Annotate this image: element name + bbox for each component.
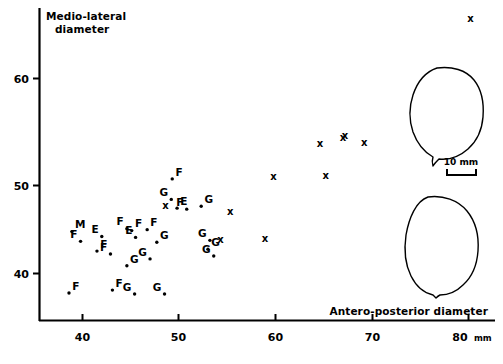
data-point-dot — [95, 249, 98, 252]
figure-scatter-plot: 60 50 40 40 50 60 70 80 mm Medio-lateral… — [0, 0, 503, 364]
data-point-label: G — [202, 243, 211, 255]
data-point-cross: x — [217, 234, 224, 245]
data-point-label: G — [123, 281, 132, 293]
x-tick-label-40: 40 — [75, 331, 91, 344]
data-point-label: F — [72, 280, 79, 292]
data-point-dot — [170, 198, 173, 201]
data-points-lettered: MFFEFFFFFEGGFGGGFGEFGGGG — [67, 166, 219, 296]
data-point-label: G — [153, 281, 162, 293]
data-point-label: E — [91, 223, 98, 235]
y-tick-label-60: 60 — [14, 73, 30, 86]
data-point-label: F — [117, 215, 124, 227]
data-point-cross: x — [322, 170, 329, 181]
lower-femoral-head-outline — [405, 197, 478, 298]
data-point-label: F — [150, 216, 157, 228]
data-point-dot — [109, 252, 112, 255]
data-point-dot — [145, 228, 148, 231]
data-point-dot — [111, 288, 114, 291]
scalebar-label: 10 mm — [444, 157, 478, 167]
data-point-dot — [171, 177, 174, 180]
data-point-cross: x — [340, 132, 347, 143]
data-point-dot — [185, 207, 188, 210]
plot-svg: 60 50 40 40 50 60 70 80 mm Medio-lateral… — [0, 0, 503, 364]
data-point-cross: x — [227, 206, 234, 217]
data-point-cross: x — [262, 233, 269, 244]
data-point-label: G — [198, 227, 207, 239]
axis-lines — [39, 8, 495, 321]
data-point-dot — [148, 257, 151, 260]
data-point-dot — [199, 205, 202, 208]
y-tick-label-40: 40 — [14, 268, 30, 281]
data-point-label: G — [159, 186, 168, 198]
data-point-label: F — [70, 228, 77, 240]
x-tick-label-50: 50 — [171, 331, 187, 344]
data-point-dot — [79, 240, 82, 243]
data-point-cross: x — [162, 200, 169, 211]
data-point-label: F — [176, 196, 183, 208]
data-point-dot — [163, 292, 166, 295]
data-points-crosses: xxxxxxxxxxx — [162, 13, 474, 245]
data-point-cross: x — [361, 137, 368, 148]
data-point-label: G — [160, 229, 169, 241]
scalebar: 10 mm — [444, 157, 478, 175]
data-point-cross: x — [317, 138, 324, 149]
y-tick-label-50: 50 — [14, 180, 30, 193]
data-point-label: E — [125, 224, 132, 236]
data-point-dot — [133, 292, 136, 295]
data-point-dot — [155, 241, 158, 244]
x-tick-label-80: 80 — [452, 331, 468, 344]
y-axis-title-line1: Medio-lateral — [46, 10, 126, 22]
data-point-label: G — [204, 193, 213, 205]
data-point-label: F — [100, 241, 107, 253]
x-tick-label-70: 70 — [365, 331, 381, 344]
scalebar-bracket — [447, 169, 476, 175]
x-axis-unit-label: mm — [474, 333, 492, 343]
x-axis-title: Antero-posterior diameter — [329, 305, 488, 317]
data-point-label: F — [175, 166, 182, 178]
data-point-dot — [67, 291, 70, 294]
y-axis-title-line2: diameter — [55, 23, 110, 35]
data-point-label: G — [138, 246, 147, 258]
data-point-cross: x — [467, 13, 474, 24]
data-point-label: F — [116, 277, 123, 289]
data-point-dot — [125, 264, 128, 267]
data-point-dot — [134, 236, 137, 239]
upper-femoral-head-outline — [410, 68, 483, 167]
x-tick-label-60: 60 — [268, 331, 284, 344]
data-point-dot — [212, 254, 215, 257]
data-point-label: F — [135, 217, 142, 229]
data-point-cross: x — [270, 171, 277, 182]
